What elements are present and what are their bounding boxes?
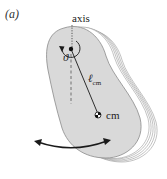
pivot-point xyxy=(69,47,73,51)
axis-label: axis xyxy=(72,12,90,24)
physical-pendulum-diagram: axis ϑ ℓcm cm xyxy=(0,0,167,179)
cm-label: cm xyxy=(106,109,120,121)
swing-arrowhead-left-icon xyxy=(34,139,42,146)
angle-label: ϑ xyxy=(63,51,69,63)
length-label-sub: cm xyxy=(93,79,102,87)
center-of-mass-icon xyxy=(95,112,101,118)
